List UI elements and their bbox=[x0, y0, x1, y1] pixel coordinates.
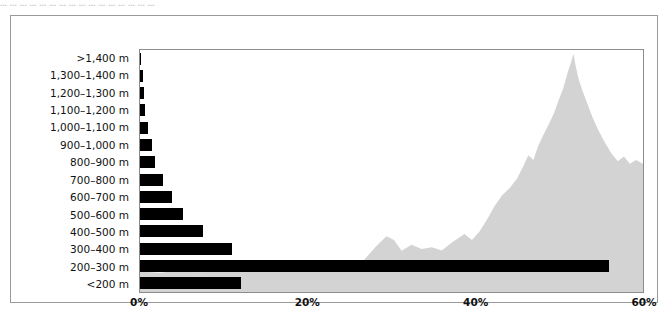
bar-series bbox=[140, 50, 643, 292]
x-tick-label: 40% bbox=[463, 296, 488, 308]
y-tick-label: 500–600 m bbox=[21, 206, 135, 223]
y-tick-label: 900–1,000 m bbox=[21, 136, 135, 153]
bar[interactable] bbox=[140, 208, 183, 220]
bar[interactable] bbox=[140, 87, 144, 99]
x-tick-label: 0% bbox=[130, 296, 148, 308]
x-axis: 0%20%40%60% bbox=[139, 296, 644, 312]
y-tick-label: >1,400 m bbox=[21, 49, 135, 66]
bar[interactable] bbox=[140, 191, 172, 203]
y-axis: >1,400 m1,300–1,400 m1,200–1,300 m1,100–… bbox=[21, 49, 135, 293]
bar-row bbox=[140, 136, 643, 153]
bar-row bbox=[140, 50, 643, 67]
figure-caption: … … … … … … … … … … … … … … … … bbox=[0, 0, 669, 9]
bar[interactable] bbox=[140, 260, 609, 272]
y-tick-label: 400–500 m bbox=[21, 223, 135, 240]
y-tick-label: 300–400 m bbox=[21, 241, 135, 258]
plot-area bbox=[139, 49, 644, 293]
x-tick-label: 60% bbox=[631, 296, 656, 308]
bar-row bbox=[140, 85, 643, 102]
bar-row bbox=[140, 223, 643, 240]
bar-row bbox=[140, 119, 643, 136]
bar-row bbox=[140, 188, 643, 205]
bar-row bbox=[140, 102, 643, 119]
bar[interactable] bbox=[140, 104, 145, 116]
y-tick-label: 200–300 m bbox=[21, 258, 135, 275]
x-tick-label: 20% bbox=[295, 296, 320, 308]
y-tick-label: 800–900 m bbox=[21, 154, 135, 171]
bar[interactable] bbox=[140, 70, 143, 82]
y-tick-label: 1,200–1,300 m bbox=[21, 84, 135, 101]
bar-row bbox=[140, 154, 643, 171]
bar[interactable] bbox=[140, 174, 163, 186]
y-tick-label: 1,100–1,200 m bbox=[21, 101, 135, 118]
bar[interactable] bbox=[140, 53, 141, 65]
bar[interactable] bbox=[140, 225, 203, 237]
bar-row bbox=[140, 240, 643, 257]
figure-container: … … … … … … … … … … … … … … … … >1,400 m… bbox=[0, 0, 669, 316]
bar[interactable] bbox=[140, 277, 241, 289]
bar[interactable] bbox=[140, 139, 152, 151]
y-tick-label: 1,000–1,100 m bbox=[21, 119, 135, 136]
bar-row bbox=[140, 275, 643, 292]
bar[interactable] bbox=[140, 122, 148, 134]
bar-row bbox=[140, 67, 643, 84]
y-tick-label: 700–800 m bbox=[21, 171, 135, 188]
y-tick-label: 1,300–1,400 m bbox=[21, 66, 135, 83]
bar-row bbox=[140, 171, 643, 188]
y-tick-label: 600–700 m bbox=[21, 188, 135, 205]
bar-row bbox=[140, 206, 643, 223]
y-tick-label: <200 m bbox=[21, 275, 135, 292]
bar-row bbox=[140, 257, 643, 274]
figure-frame: >1,400 m1,300–1,400 m1,200–1,300 m1,100–… bbox=[10, 15, 658, 303]
bar[interactable] bbox=[140, 156, 155, 168]
bar[interactable] bbox=[140, 243, 232, 255]
